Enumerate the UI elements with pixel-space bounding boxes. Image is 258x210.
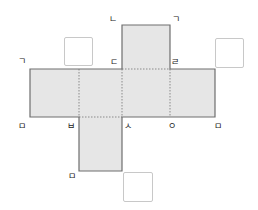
answer-box-2[interactable]	[215, 38, 244, 68]
vertex-label: ㅁ	[214, 122, 222, 131]
answer-box-1[interactable]	[64, 37, 93, 66]
answer-box-3[interactable]	[123, 172, 153, 202]
vertex-label: ㅅ	[124, 122, 132, 131]
vertex-label: ㄷ	[110, 58, 118, 67]
vertex-label: ㄱ	[18, 57, 26, 66]
vertex-label: ㅇ	[168, 122, 176, 131]
vertex-label: ㄴ	[109, 15, 117, 24]
vertex-label: ㄱ	[172, 15, 180, 24]
vertex-label: ㅁ	[18, 122, 26, 131]
face-top	[122, 25, 170, 69]
vertex-label: ㅂ	[67, 122, 75, 131]
vertex-label: ㅁ	[68, 172, 76, 181]
vertex-label: ㄹ	[171, 58, 179, 67]
face-bottom	[79, 117, 122, 171]
